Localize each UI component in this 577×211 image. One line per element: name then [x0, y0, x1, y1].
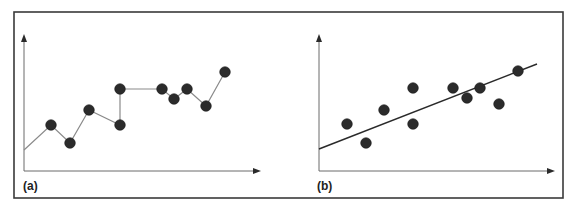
- figure-frame: [14, 12, 563, 198]
- data-point: [169, 94, 180, 105]
- data-point: [342, 119, 353, 130]
- data-point: [408, 83, 419, 94]
- data-point: [46, 120, 57, 131]
- data-point: [84, 105, 95, 116]
- y-axis-arrow-icon: [316, 34, 322, 42]
- panel-label-b: (b): [317, 179, 332, 193]
- data-point: [408, 119, 419, 130]
- data-point: [494, 99, 505, 110]
- data-point: [462, 93, 473, 104]
- figure: (a) (b): [0, 0, 577, 211]
- data-point: [513, 66, 524, 77]
- data-point: [182, 84, 193, 95]
- data-point: [201, 101, 212, 112]
- data-point: [361, 138, 372, 149]
- data-point: [475, 83, 486, 94]
- panel-label-a: (a): [23, 179, 38, 193]
- panel-a: (a): [21, 34, 261, 193]
- data-point: [448, 83, 459, 94]
- data-point: [220, 67, 231, 78]
- data-points: [342, 66, 524, 149]
- data-point: [65, 138, 76, 149]
- trend-line: [319, 64, 537, 149]
- data-point: [115, 120, 126, 131]
- data-point: [115, 84, 126, 95]
- connecting-line: [24, 72, 225, 150]
- y-axis-arrow-icon: [21, 34, 27, 42]
- data-point: [157, 84, 168, 95]
- x-axis-arrow-icon: [253, 168, 261, 174]
- figure-canvas: (a) (b): [0, 0, 577, 211]
- x-axis-arrow-icon: [547, 168, 555, 174]
- data-point: [379, 105, 390, 116]
- panel-b: (b): [316, 34, 555, 193]
